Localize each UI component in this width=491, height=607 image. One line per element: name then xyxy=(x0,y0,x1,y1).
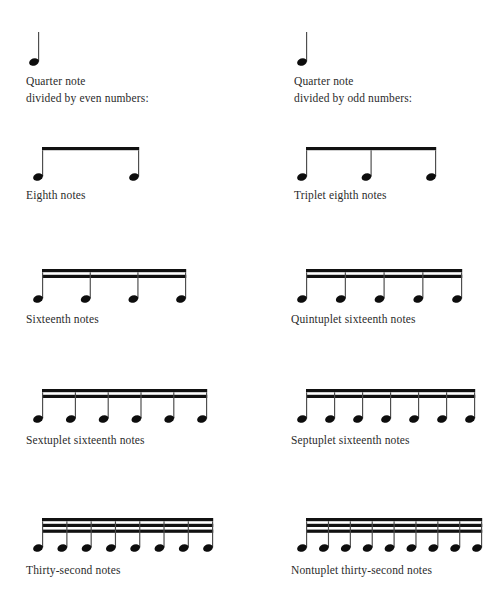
notation-sextuplet-sixteenth-notes xyxy=(30,383,212,429)
label-sixteenth-notes: Sixteenth notes xyxy=(26,311,99,327)
label-eighth-notes: Eighth notes xyxy=(26,187,86,203)
column-even-divisions: Quarter note divided by even numbers: Ei… xyxy=(0,0,245,607)
label-septuplet-sixteenth-notes: Septuplet sixteenth notes xyxy=(291,432,410,448)
odd-heading-line1: Quarter note xyxy=(294,73,354,90)
notation-quintuplet-sixteenth-notes xyxy=(294,263,467,309)
notation-eighth-notes xyxy=(30,141,144,187)
even-heading-line2: divided by even numbers: xyxy=(26,90,149,107)
label-thirty-second-notes: Thirty-second notes xyxy=(26,562,121,578)
label-sextuplet-sixteenth-notes: Sextuplet sixteenth notes xyxy=(26,432,145,448)
even-heading-line1: Quarter note xyxy=(26,73,86,90)
label-triplet-eighth-notes: Triplet eighth notes xyxy=(294,187,387,203)
notation-triplet-eighth-notes xyxy=(294,141,441,187)
notation-diagram-page: Quarter note divided by even numbers: Ei… xyxy=(0,0,491,607)
quarter-note-icon xyxy=(294,26,312,72)
notation-thirty-second-notes xyxy=(30,512,218,558)
odd-heading-line2: divided by odd numbers: xyxy=(294,90,412,107)
label-nontuplet-thirty-second-notes: Nontuplet thirty-second notes xyxy=(291,562,432,578)
quarter-note-icon xyxy=(26,26,44,72)
column-odd-divisions: Quarter note divided by odd numbers: Tri… xyxy=(246,0,491,607)
notation-sixteenth-notes xyxy=(30,263,191,309)
notation-septuplet-sixteenth-notes xyxy=(294,383,480,429)
notation-nontuplet-thirty-second-notes xyxy=(294,512,487,558)
label-quintuplet-sixteenth-notes: Quintuplet sixteenth notes xyxy=(291,311,416,327)
